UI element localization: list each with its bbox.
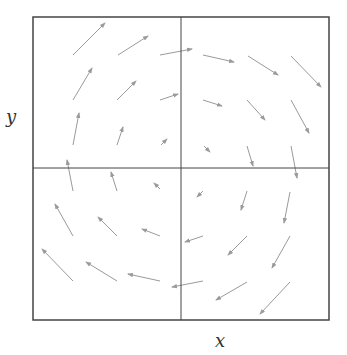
vector-arrow (247, 146, 253, 166)
y-axis-label: y (6, 108, 16, 126)
vector-arrow (117, 127, 123, 145)
vector-arrow (73, 23, 105, 55)
vector-arrow (185, 236, 203, 242)
vector-arrow (128, 274, 160, 281)
vector-arrow (142, 229, 160, 236)
vector-arrow (291, 56, 321, 87)
x-axis-label: x (215, 332, 225, 350)
vector-arrow (160, 94, 178, 100)
vector-arrow (160, 49, 192, 55)
vector-arrow (204, 146, 210, 152)
vector-arrow (248, 56, 278, 75)
vector-arrow (203, 100, 222, 106)
vector-arrow (73, 113, 79, 145)
vector-arrow (172, 281, 203, 287)
vector-arrow (228, 236, 247, 255)
vector-arrow (73, 68, 92, 100)
vector-arrow (247, 100, 265, 120)
vector-arrow (111, 172, 117, 191)
vector-arrow (67, 160, 73, 191)
vector-arrow (42, 249, 73, 281)
vector-arrow (118, 36, 148, 55)
vector-arrow (291, 146, 297, 178)
vector-arrow (241, 191, 247, 210)
vector-arrow (216, 282, 247, 300)
vector-arrow (98, 217, 117, 236)
vector-arrow (203, 55, 234, 62)
vector-field-plot (0, 0, 347, 355)
vector-arrow (86, 262, 117, 281)
vector-arrow (117, 81, 136, 100)
vector-arrow (291, 100, 309, 133)
vector-arrow (55, 204, 73, 236)
vector-arrow (197, 191, 203, 197)
vector-arrow (161, 139, 167, 145)
vector-arrow (272, 236, 290, 268)
vector-arrow (154, 183, 160, 189)
vector-arrow (284, 192, 290, 223)
vector-arrow (260, 282, 290, 314)
